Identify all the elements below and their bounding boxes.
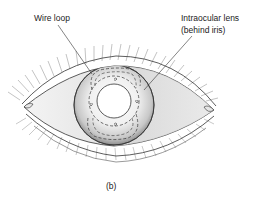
intraocular-lens-sublabel: (behind iris) xyxy=(181,25,225,36)
eye-diagram xyxy=(0,0,267,206)
intraocular-lens-label: Intraocular lens xyxy=(181,13,239,24)
figure-caption: (b) xyxy=(106,181,116,192)
wire-loop-leader xyxy=(58,25,92,74)
wire-loop-label: Wire loop xyxy=(34,13,70,24)
pupil xyxy=(97,84,131,118)
